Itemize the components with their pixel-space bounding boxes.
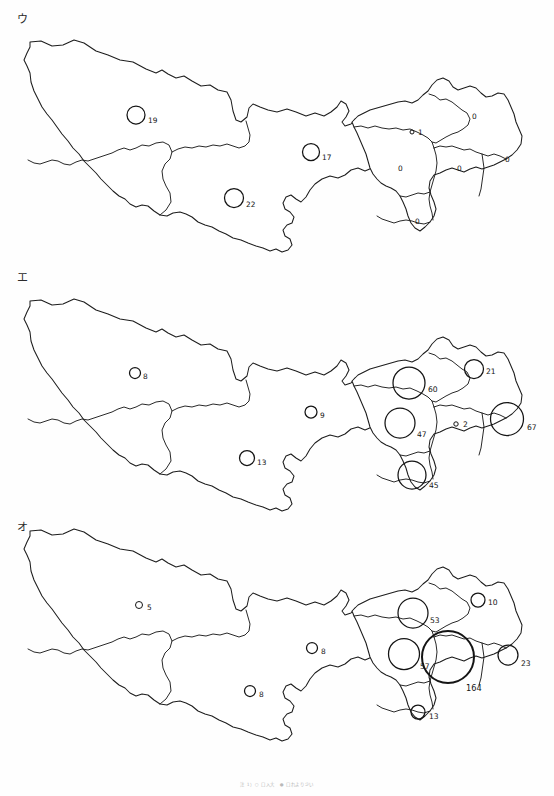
symbol-45-label: 45	[429, 481, 439, 490]
symbol-8a-label: 8	[321, 647, 326, 656]
symbol-23-label: 23	[521, 659, 531, 668]
symbol-19-label: 19	[148, 116, 158, 125]
symbol-1-label: 1	[418, 128, 423, 137]
symbol-60-label: 60	[428, 385, 438, 394]
map-graphic-o: 5 8 8 53 10 57 164 23 13	[0, 508, 554, 796]
symbol-0-d-label: 0	[472, 112, 477, 121]
symbol-2-label: 2	[463, 420, 468, 429]
figure-caption: 注 1）○ 口入大 ● 口れより少い	[0, 782, 554, 788]
symbol-22-label: 22	[246, 200, 255, 209]
map-outline-o	[24, 529, 522, 741]
symbol-17-label: 17	[322, 153, 332, 162]
symbol-8b-label: 8	[259, 690, 264, 699]
symbol-23-circle	[498, 645, 518, 665]
symbol-21-label: 21	[486, 367, 496, 376]
symbol-13-label: 13	[257, 458, 267, 467]
map-outline-u	[24, 40, 522, 252]
map-outline-e	[24, 299, 522, 511]
symbol-9-label: 9	[320, 411, 325, 420]
figure-sheet: ウ	[0, 0, 554, 796]
symbol-0-a-label: 0	[398, 164, 403, 173]
map-panel-e: エ 8 9 13	[0, 258, 554, 508]
map-panel-o: オ 5 8 8	[0, 508, 554, 796]
map-graphic-e: 8 9 13 60 21 47 2 67 45	[0, 258, 554, 548]
symbol-164-label: 164	[466, 683, 482, 693]
symbol-5-label: 5	[147, 603, 152, 612]
symbol-0-b-label: 0	[457, 164, 462, 173]
symbol-10-label: 10	[488, 598, 498, 607]
map-panel-u: ウ	[0, 0, 554, 258]
symbol-0-c-label: 0	[505, 155, 510, 164]
symbol-13b-label: 13	[429, 712, 439, 721]
symbol-47-label: 47	[417, 430, 427, 439]
map-graphic-u: 19 17 22 1 0 0 0 0 0	[0, 0, 554, 290]
symbol-8-label: 8	[143, 372, 148, 381]
symbol-53-label: 53	[430, 616, 440, 625]
symbol-67-label: 67	[527, 423, 537, 432]
symbol-0-e-label: 0	[415, 217, 420, 226]
